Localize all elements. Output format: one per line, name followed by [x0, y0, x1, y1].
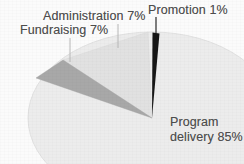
pie-chart-figure: Fundraising 7% Administration 7% Promoti…: [0, 0, 244, 164]
slice-label-fundraising: Fundraising 7%: [20, 23, 108, 37]
slice-label-administration: Administration 7%: [43, 9, 145, 23]
slice-label-program-delivery: Program delivery 85%: [170, 115, 244, 145]
slice-label-program-delivery-line1: Program: [170, 115, 219, 129]
slice-label-promotion: Promotion 1%: [148, 3, 228, 17]
slice-label-program-delivery-line2: delivery 85%: [170, 130, 243, 144]
